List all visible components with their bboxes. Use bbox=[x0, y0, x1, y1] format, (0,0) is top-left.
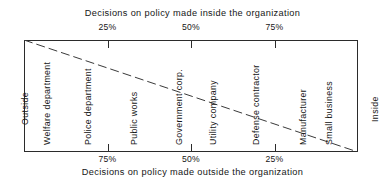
top-axis-title: Decisions on policy made inside the orga… bbox=[0, 8, 385, 18]
right-axis-label: Inside bbox=[370, 96, 380, 122]
bottom-axis-title: Decisions on policy made outside the org… bbox=[0, 167, 385, 177]
bottom-tick-label: 50% bbox=[182, 154, 200, 164]
bottom-tick-mark bbox=[108, 144, 109, 152]
top-tick-label: 25% bbox=[99, 22, 117, 32]
bottom-tick-mark bbox=[191, 144, 192, 152]
chart-figure: Decisions on policy made inside the orga… bbox=[0, 0, 385, 186]
top-tick-label: 50% bbox=[182, 22, 200, 32]
category-label: Police department bbox=[83, 68, 93, 145]
category-label: Defense contractor bbox=[251, 64, 261, 145]
category-label: Public works bbox=[129, 91, 139, 145]
top-tick-label: 75% bbox=[266, 22, 284, 32]
category-label: Utility company bbox=[208, 80, 218, 145]
bottom-tick-mark bbox=[275, 144, 276, 152]
category-label: Welfare department bbox=[42, 62, 52, 145]
category-label: Government corp. bbox=[174, 69, 184, 145]
category-label: Small business bbox=[324, 81, 334, 145]
left-axis-label: Outside bbox=[20, 92, 30, 125]
category-label: Manufacturer bbox=[298, 89, 308, 145]
bottom-tick-label: 75% bbox=[99, 154, 117, 164]
bottom-tick-label: 25% bbox=[266, 154, 284, 164]
